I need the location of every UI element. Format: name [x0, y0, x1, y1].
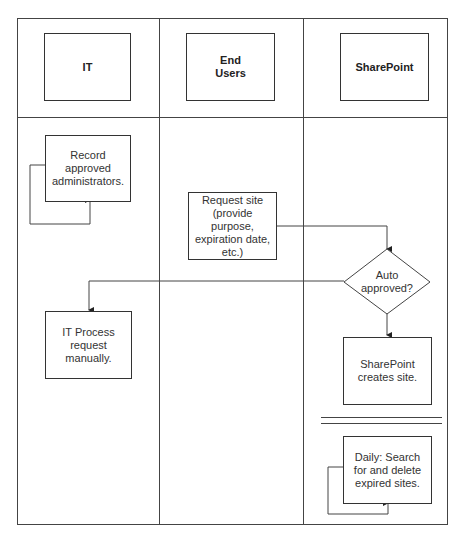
node-text: SharePoint creates site. — [352, 358, 423, 384]
node-request-site: Request site (provide purpose, expiratio… — [188, 192, 277, 260]
lane-header-it: IT — [44, 33, 131, 101]
edge-request-to-decision — [276, 226, 387, 249]
node-text: Record approved administrators. — [50, 149, 126, 188]
node-text: IT Process request manually. — [49, 326, 128, 365]
node-daily-search: Daily: Search for and delete expired sit… — [343, 436, 432, 504]
node-sp-creates: SharePoint creates site. — [343, 337, 432, 405]
node-text: Request site (provide purpose, expiratio… — [191, 194, 274, 259]
lane-header-label: End Users — [215, 54, 246, 80]
lane-header-end-users: End Users — [186, 33, 275, 101]
edge-decision-to-it — [89, 281, 344, 310]
node-record-admins: Record approved administrators. — [45, 135, 131, 202]
node-auto-approved-text: Auto approved? — [356, 269, 418, 295]
lane-header-label: IT — [83, 61, 93, 74]
node-it-process: IT Process request manually. — [45, 311, 132, 379]
lane-header-label: SharePoint — [355, 61, 413, 74]
lane-header-sharepoint: SharePoint — [340, 33, 429, 101]
node-text: Daily: Search for and delete expired sit… — [347, 451, 428, 490]
